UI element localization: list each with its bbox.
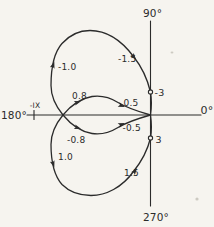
label-lower-lens-p2: -0.5 <box>123 123 141 133</box>
label-pos3-crossing: 3 <box>156 134 162 145</box>
label-upper-lens-p2: 0.5 <box>124 98 139 108</box>
label-0deg: 0° <box>201 104 214 117</box>
label-upper-loop-p2: -1.5 <box>118 54 136 64</box>
polar-plot-figure: 90° 270° 180° 0° -IX -1.0 -1.5 -3 0.8 0.… <box>0 0 214 227</box>
label-upper-lens-p1: 0.8 <box>72 91 87 101</box>
label-lower-lens-p1: -0.8 <box>67 135 85 145</box>
axis-crossing-marker-neg3 <box>148 90 152 94</box>
label-upper-loop-p1: -1.0 <box>58 62 76 72</box>
label-270deg: 270° <box>143 211 169 223</box>
label-lower-loop-p2: 1.5 <box>124 168 139 178</box>
label-180deg: 180° <box>1 109 27 121</box>
axis-crossing-marker-pos3 <box>148 136 152 140</box>
label-neg3-crossing: -3 <box>155 87 165 98</box>
label-90deg: 90° <box>143 7 162 19</box>
polar-plot-canvas: 90° 270° 180° 0° -IX -1.0 -1.5 -3 0.8 0.… <box>0 0 214 227</box>
label-lower-loop-p1: 1.0 <box>58 152 73 162</box>
scan-speck-1 <box>171 51 174 53</box>
label-minus-one-cross: -IX <box>30 101 41 110</box>
scan-speck-2 <box>195 197 198 200</box>
